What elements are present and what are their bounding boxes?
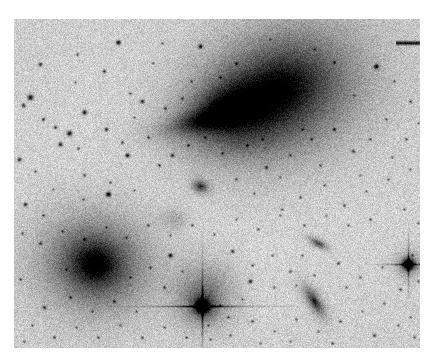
image-caption: Negative grayscale astronomical plate im…	[0, 0, 1, 1]
paper-margin-top	[0, 0, 429, 19]
sky-field-canvas	[14, 19, 420, 348]
astronomical-plate-image	[14, 19, 420, 348]
paper-margin-bottom	[0, 348, 429, 360]
plate-page: Negative grayscale astronomical plate im…	[0, 0, 429, 360]
paper-margin-left	[0, 0, 14, 360]
paper-margin-right	[420, 0, 429, 360]
